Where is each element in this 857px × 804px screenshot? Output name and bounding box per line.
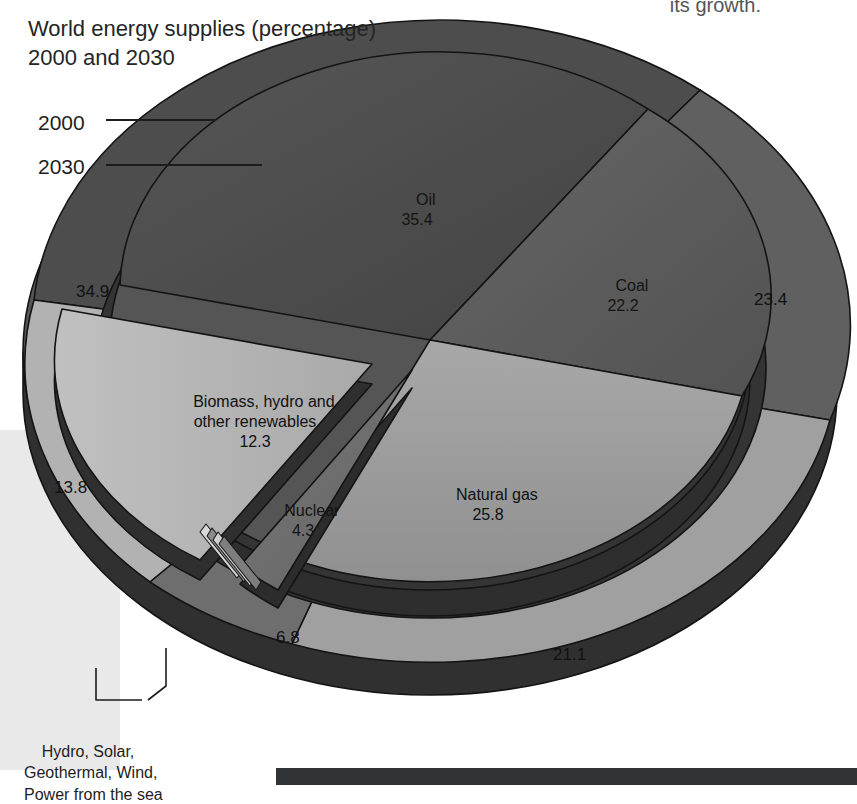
outer-value-natural-gas: 21.1 xyxy=(553,645,586,665)
caption-line-2: Geothermal, Wind, xyxy=(24,764,157,781)
legend-label-2000: 2000 xyxy=(38,111,85,135)
slice-value-nuclear: 4.3 xyxy=(292,522,314,539)
slice-name-oil: Oil xyxy=(416,191,436,208)
slice-label-oil: Oil35.4 xyxy=(372,170,462,250)
bottom-bar xyxy=(276,768,857,785)
caption-line-3: Power from the sea xyxy=(24,786,163,803)
outer-value-nuclear: 6.8 xyxy=(276,628,300,648)
title-line-2: 2000 and 2030 xyxy=(28,45,175,70)
slice-value-oil: 35.4 xyxy=(401,211,432,228)
slice-value-gas: 25.8 xyxy=(472,506,503,523)
slice-name-renewables-1: Biomass, hydro and xyxy=(193,393,334,410)
slice-label-nuclear: Nuclear4.3 xyxy=(258,481,348,561)
slice-name-gas: Natural gas xyxy=(456,486,538,503)
outer-value-oil: 34.9 xyxy=(76,282,109,302)
slice-name-nuclear: Nuclear xyxy=(284,502,339,519)
sliver-caption: Hydro, Solar,Geothermal, Wind,Power from… xyxy=(24,719,163,804)
slice-name-renewables-2: other renewables xyxy=(194,413,317,430)
slice-value-renewables: 12.3 xyxy=(239,433,270,450)
legend-label-2030: 2030 xyxy=(38,155,85,179)
outer-value-coal: 23.4 xyxy=(754,290,787,310)
slice-label-natural-gas: Natural gas25.8 xyxy=(418,465,558,545)
caption-line-1: Hydro, Solar, xyxy=(42,743,134,760)
page-title: World energy supplies (percentage)2000 a… xyxy=(28,14,376,72)
outer-value-renewables: 13.8 xyxy=(54,478,87,498)
slice-label-coal: Coal22.2 xyxy=(578,256,668,336)
top-text-fragment: its growth. xyxy=(670,0,761,18)
slice-value-coal: 22.2 xyxy=(607,297,638,314)
slice-label-renewables: Biomass, hydro andother renewables12.3 xyxy=(148,372,362,472)
title-line-1: World energy supplies (percentage) xyxy=(28,16,376,41)
slice-name-coal: Coal xyxy=(615,277,648,294)
